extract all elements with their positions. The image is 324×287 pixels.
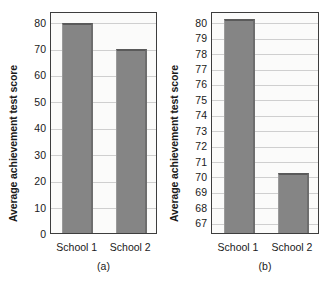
y-tick-label: 0 xyxy=(40,229,46,240)
y-tick-label: 78 xyxy=(195,48,207,59)
bar-school-1 xyxy=(62,23,93,234)
y-tick-label: 40 xyxy=(34,123,46,134)
y-tick-label: 73 xyxy=(195,125,207,136)
y-tick-label: 70 xyxy=(34,44,46,55)
y-tick-label: 76 xyxy=(195,79,207,90)
x-axis-category-labels-a: School 1School 2 xyxy=(50,241,157,257)
bar-school-2 xyxy=(278,173,309,234)
x-tick-label: School 2 xyxy=(110,241,151,253)
y-tick-label: 79 xyxy=(195,33,207,44)
y-tick-label: 20 xyxy=(34,176,46,187)
y-tick-label: 77 xyxy=(195,64,207,75)
chart-panel-b: Average achievement test score 676869707… xyxy=(162,0,324,287)
y-tick-label: 80 xyxy=(195,18,207,29)
plot-area-a xyxy=(50,12,157,234)
y-tick-label: 67 xyxy=(195,218,207,229)
bar-school-2 xyxy=(116,49,147,234)
plot-area-b xyxy=(211,12,319,234)
x-tick-label: School 1 xyxy=(56,241,97,253)
y-axis-tick-labels-b: 6768697071727374757677787980 xyxy=(162,0,207,287)
y-tick-label: 60 xyxy=(34,70,46,81)
y-tick-label: 30 xyxy=(34,149,46,160)
y-tick-label: 72 xyxy=(195,141,207,152)
y-tick-label: 74 xyxy=(195,110,207,121)
y-tick-label: 80 xyxy=(34,17,46,28)
y-tick-label: 71 xyxy=(195,156,207,167)
x-axis-category-labels-b: School 1School 2 xyxy=(211,241,319,257)
bar-school-1 xyxy=(224,19,255,234)
y-tick-label: 10 xyxy=(34,202,46,213)
panel-caption-a: (a) xyxy=(97,260,110,272)
y-tick-label: 75 xyxy=(195,95,207,106)
y-tick-label: 70 xyxy=(195,172,207,183)
chart-panel-a: Average achievement test score 010203040… xyxy=(0,0,162,287)
figure-two-bar-charts: Average achievement test score 010203040… xyxy=(0,0,324,287)
panel-caption-b: (b) xyxy=(259,260,272,272)
x-tick-label: School 1 xyxy=(218,241,259,253)
y-tick-label: 69 xyxy=(195,187,207,198)
y-axis-tick-labels-a: 01020304050607080 xyxy=(0,0,46,287)
y-tick-label: 68 xyxy=(195,203,207,214)
y-tick-label: 50 xyxy=(34,97,46,108)
x-tick-label: School 2 xyxy=(272,241,313,253)
